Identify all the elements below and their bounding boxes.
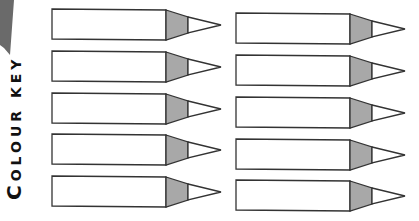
title-initial: C	[2, 181, 26, 200]
pencil-left-2[interactable]	[52, 51, 221, 82]
pencil-wood	[350, 181, 372, 211]
pencil-body[interactable]	[52, 93, 166, 124]
pencil-body[interactable]	[52, 51, 166, 82]
pencil-right-5[interactable]	[236, 180, 405, 211]
pencil-tip	[188, 184, 221, 200]
pencil-body[interactable]	[52, 176, 166, 207]
corner-crayon-shape	[0, 0, 14, 55]
pencil-tip	[372, 188, 405, 204]
pencil-tip	[188, 142, 221, 158]
pencil-wood	[166, 52, 188, 82]
pencil-body[interactable]	[236, 97, 350, 128]
pencil-wood	[166, 177, 188, 207]
pencil-body[interactable]	[236, 180, 350, 211]
title-rest: OLOUR KEY	[8, 56, 24, 182]
colour-key-title: COLOUR KEY	[4, 56, 26, 200]
pencil-right-4[interactable]	[236, 139, 405, 170]
pencil-body[interactable]	[236, 55, 350, 86]
pencil-right-2[interactable]	[236, 55, 405, 86]
pencil-tip	[372, 21, 405, 37]
pencil-body[interactable]	[236, 139, 350, 170]
pencil-tip	[372, 63, 405, 79]
pencil-tip	[188, 101, 221, 117]
pencil-right-1[interactable]	[236, 13, 405, 44]
pencil-grid	[0, 0, 419, 221]
pencil-wood	[350, 14, 372, 44]
pencil-tip	[372, 105, 405, 121]
pencil-wood	[166, 135, 188, 165]
pencil-right-3[interactable]	[236, 97, 405, 128]
pencil-wood	[166, 94, 188, 124]
pencil-left-4[interactable]	[52, 134, 221, 165]
pencil-wood	[166, 10, 188, 40]
pencil-wood	[350, 56, 372, 86]
pencil-wood	[350, 140, 372, 170]
pencil-body[interactable]	[236, 13, 350, 44]
pencil-left-1[interactable]	[52, 9, 221, 40]
pencil-tip	[372, 147, 405, 163]
pencil-tip	[188, 59, 221, 75]
pencil-wood	[350, 98, 372, 128]
pencil-tip	[188, 17, 221, 33]
pencil-left-5[interactable]	[52, 176, 221, 207]
pencil-body[interactable]	[52, 9, 166, 40]
pencil-left-3[interactable]	[52, 93, 221, 124]
pencil-body[interactable]	[52, 134, 166, 165]
